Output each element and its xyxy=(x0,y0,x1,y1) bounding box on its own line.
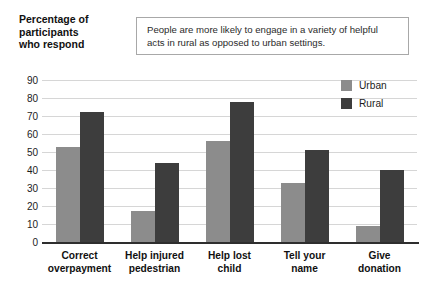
bar-rural-0 xyxy=(80,112,104,242)
y-tick-label-80: 80 xyxy=(4,93,38,104)
y-tick-label-0: 0 xyxy=(4,237,38,248)
y-tick-label-70: 70 xyxy=(4,111,38,122)
bar-urban-4 xyxy=(356,226,380,242)
y-tick-label-20: 20 xyxy=(4,201,38,212)
y-tick-label-90: 90 xyxy=(4,75,38,86)
legend-label-rural: Rural xyxy=(359,98,383,109)
y-axis-title-line-1: Percentage of xyxy=(19,13,124,26)
caption-box: People are more likely to engage in a va… xyxy=(136,17,409,55)
y-axis-title: Percentage ofparticipantswho respond xyxy=(19,13,124,51)
x-axis-label-4-line-2: donation xyxy=(334,263,425,276)
bar-chart-figure: Percentage ofparticipantswho respond Peo… xyxy=(0,0,433,291)
x-axis-label-4: Givedonation xyxy=(334,250,425,275)
legend-swatch-rural-icon xyxy=(341,98,352,109)
legend-item-rural: Rural xyxy=(341,96,427,111)
y-axis-ticks: 9080706050403020100 xyxy=(0,80,38,242)
bar-group xyxy=(117,80,192,242)
y-tick-label-50: 50 xyxy=(4,147,38,158)
y-tick-label-30: 30 xyxy=(4,183,38,194)
x-axis-labels: CorrectoverpaymentHelp injuredpedestrian… xyxy=(42,250,417,288)
bar-urban-0 xyxy=(56,147,80,242)
y-tick-label-60: 60 xyxy=(4,129,38,140)
legend-item-urban: Urban xyxy=(341,78,427,93)
bar-urban-3 xyxy=(281,183,305,242)
x-axis-label-4-line-1: Give xyxy=(334,250,425,263)
bar-rural-3 xyxy=(305,150,329,242)
chart-legend: UrbanRural xyxy=(341,78,427,114)
legend-label-urban: Urban xyxy=(359,80,387,91)
x-axis-line xyxy=(42,242,419,244)
legend-swatch-urban-icon xyxy=(341,80,352,91)
bar-rural-1 xyxy=(155,163,179,242)
bar-urban-1 xyxy=(131,211,155,242)
bar-group xyxy=(267,80,342,242)
caption-text: People are more likely to engage in a va… xyxy=(137,23,408,49)
y-axis-title-line-2: participants xyxy=(19,26,124,39)
y-tick-label-10: 10 xyxy=(4,219,38,230)
y-axis-title-line-3: who respond xyxy=(19,38,124,51)
bar-rural-2 xyxy=(230,102,254,242)
bar-group xyxy=(192,80,267,242)
bar-urban-2 xyxy=(206,141,230,242)
y-tick-label-40: 40 xyxy=(4,165,38,176)
bar-rural-4 xyxy=(380,170,404,242)
bar-group xyxy=(42,80,117,242)
